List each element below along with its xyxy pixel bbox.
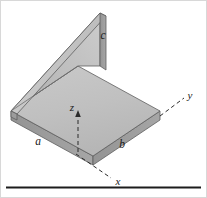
dimension-label-c: c [100,29,105,41]
y-axis-dashed-line [160,98,184,116]
vertical-plate-right-edge-face [100,13,106,70]
bent-plate-diagram: z y x a b c [0,0,207,198]
dimension-label-a: a [35,135,41,147]
horizontal-plate-top-face [11,66,160,156]
horizontal-plate [11,66,160,165]
dimension-label-b: b [119,138,125,150]
y-axis-label: y [187,89,193,101]
x-axis-label: x [115,175,121,187]
z-axis-label: z [69,101,75,113]
figure-container: z y x a b c [0,0,207,198]
